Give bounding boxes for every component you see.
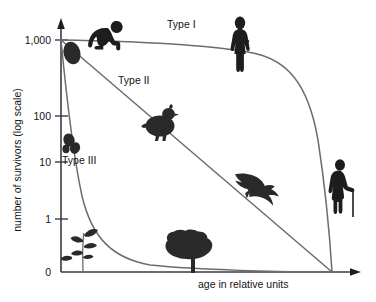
seed-silhouette bbox=[62, 132, 82, 155]
y-tick-labels: 1,000 100 10 1 0 bbox=[25, 34, 51, 278]
elderly-person-silhouette bbox=[329, 159, 355, 217]
x-axis-arrowhead bbox=[350, 268, 361, 276]
seedling-silhouette bbox=[60, 229, 98, 271]
axes-group bbox=[55, 18, 361, 276]
survivorship-curve-figure: 1,000 100 10 1 0 number of survivors (lo… bbox=[0, 0, 376, 302]
chart-canvas: 1,000 100 10 1 0 number of survivors (lo… bbox=[0, 0, 376, 302]
woman-silhouette bbox=[231, 17, 250, 72]
y-tick-label-100: 100 bbox=[33, 110, 51, 122]
curve-label-type-iii: Type III bbox=[62, 154, 96, 166]
y-axis-title: number of survivors (log scale) bbox=[11, 88, 23, 232]
y-tick-label-1000: 1,000 bbox=[25, 34, 51, 46]
y-tick-label-1: 1 bbox=[45, 213, 51, 225]
eagle-silhouette bbox=[229, 170, 283, 207]
curve-label-type-ii: Type II bbox=[118, 74, 150, 86]
curve-label-type-i: Type I bbox=[167, 18, 196, 30]
x-axis-title: age in relative units bbox=[198, 278, 288, 290]
y-axis-arrowhead bbox=[57, 18, 65, 29]
y-tick-label-0: 0 bbox=[45, 266, 51, 278]
y-tick-label-10: 10 bbox=[39, 156, 51, 168]
baby-silhouette bbox=[88, 21, 123, 50]
